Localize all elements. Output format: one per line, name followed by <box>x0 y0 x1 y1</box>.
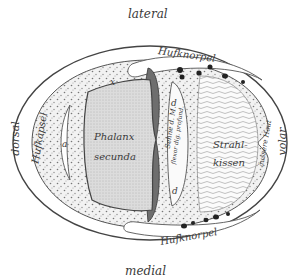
label-x: x <box>110 78 115 87</box>
label-d-bottom: d <box>172 187 178 196</box>
diagram-svg <box>0 0 297 280</box>
label-phalanx-2: secunda <box>94 152 136 162</box>
label-phalanx-1: Phalanx <box>94 132 134 142</box>
label-d-top: d <box>171 99 177 108</box>
phalanx-secunda-shape <box>84 80 156 211</box>
hoof-cross-section-diagram: lateral medial dorsal volar Hufkapsel Hu… <box>0 0 297 280</box>
label-a: a <box>62 140 67 149</box>
label-strahlkissen-2: kissen <box>213 158 245 168</box>
label-medial: medial <box>125 265 166 277</box>
label-lateral: lateral <box>128 8 168 20</box>
label-strahlkissen-1: Strahl- <box>213 140 248 150</box>
label-volar: volar <box>277 127 288 155</box>
label-dorsal: dorsal <box>10 121 21 156</box>
